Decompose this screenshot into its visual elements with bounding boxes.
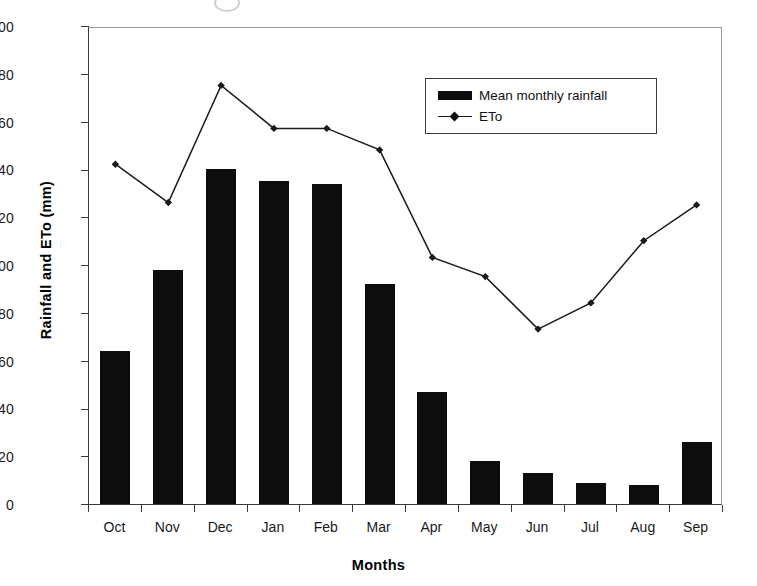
y-tick-mark <box>81 26 89 27</box>
eto-marker-feb <box>323 125 330 132</box>
x-tick-mark <box>458 505 459 512</box>
x-tick-label: Sep <box>666 520 726 535</box>
y-tick-label: 60 <box>0 355 14 369</box>
y-tick-mark <box>81 265 89 266</box>
y-axis-title: Rainfall and ETo (mm) <box>38 130 54 390</box>
x-tick-mark <box>352 505 353 512</box>
y-tick-mark <box>81 74 89 75</box>
y-tick-label: 160 <box>0 116 14 130</box>
eto-marker-apr <box>429 254 436 261</box>
y-tick-mark <box>81 361 89 362</box>
legend-line-marker-icon <box>438 111 472 122</box>
y-tick-label: 200 <box>0 20 14 34</box>
x-tick-label: Jan <box>243 520 303 535</box>
x-tick-mark <box>141 505 142 512</box>
x-tick-mark <box>511 505 512 512</box>
x-axis-title: Months <box>0 557 757 573</box>
y-tick-label: 100 <box>0 259 14 273</box>
x-tick-label: Dec <box>190 520 250 535</box>
x-tick-label: Apr <box>401 520 461 535</box>
x-tick-mark <box>669 505 670 512</box>
y-tick-mark <box>81 217 89 218</box>
legend-label-eto: ETo <box>479 110 502 124</box>
y-tick-label: 0 <box>0 498 14 512</box>
legend-item-eto: ETo <box>438 106 656 127</box>
x-tick-mark <box>722 505 723 512</box>
chart-figure: Rainfall and ETo (mm) Mean monthly rainf… <box>0 0 757 586</box>
x-tick-mark <box>405 505 406 512</box>
x-tick-label: Nov <box>137 520 197 535</box>
y-tick-mark <box>81 456 89 457</box>
legend-label-rainfall: Mean monthly rainfall <box>479 89 607 103</box>
chart-legend: Mean monthly rainfall ETo <box>425 78 657 134</box>
x-tick-mark <box>194 505 195 512</box>
x-tick-mark <box>564 505 565 512</box>
y-tick-mark <box>81 313 89 314</box>
y-tick-mark <box>81 170 89 171</box>
x-tick-label: Jul <box>560 520 620 535</box>
legend-bar-swatch-icon <box>438 91 472 100</box>
y-tick-label: 180 <box>0 68 14 82</box>
y-tick-label: 80 <box>0 307 14 321</box>
y-tick-label: 20 <box>0 450 14 464</box>
y-tick-label: 40 <box>0 402 14 416</box>
y-tick-mark <box>81 122 89 123</box>
x-tick-mark <box>247 505 248 512</box>
x-tick-mark <box>88 505 89 512</box>
x-tick-label: Jun <box>507 520 567 535</box>
x-tick-label: Mar <box>349 520 409 535</box>
legend-item-rainfall: Mean monthly rainfall <box>438 85 656 106</box>
y-tick-mark <box>81 409 89 410</box>
x-tick-mark <box>299 505 300 512</box>
x-tick-mark <box>616 505 617 512</box>
x-tick-label: Oct <box>84 520 144 535</box>
eto-marker-mar <box>376 146 383 153</box>
x-tick-label: Aug <box>613 520 673 535</box>
y-tick-label: 120 <box>0 211 14 225</box>
x-tick-label: May <box>454 520 514 535</box>
x-tick-label: Feb <box>296 520 356 535</box>
y-tick-label: 140 <box>0 163 14 177</box>
